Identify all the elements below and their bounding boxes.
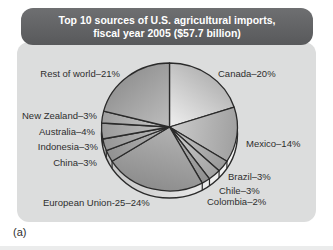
slice-label-rest-of-world: Rest of world–21%	[40, 68, 120, 79]
pie-chart	[0, 0, 333, 250]
slice-label-colombia: Colombia–2%	[207, 196, 266, 207]
slice-label-brazil: Brazil–3%	[228, 171, 271, 182]
slice-label-canada: Canada–20%	[218, 68, 276, 79]
slice-label-australia: Australia–4%	[39, 126, 95, 137]
page-edge-strip	[0, 246, 333, 250]
slice-label-mexico: Mexico–14%	[246, 138, 300, 149]
slice-label-new-zealand: New Zealand–3%	[22, 110, 97, 121]
figure-caption: (a)	[13, 226, 26, 238]
slice-label-european-union: European Union-25–24%	[43, 197, 150, 208]
slice-label-indonesia: Indonesia–3%	[38, 141, 98, 152]
figure: Top 10 sources of U.S. agricultural impo…	[0, 0, 333, 250]
slice-label-china: China–3%	[53, 157, 97, 168]
slice-label-chile: Chile–3%	[219, 185, 260, 196]
